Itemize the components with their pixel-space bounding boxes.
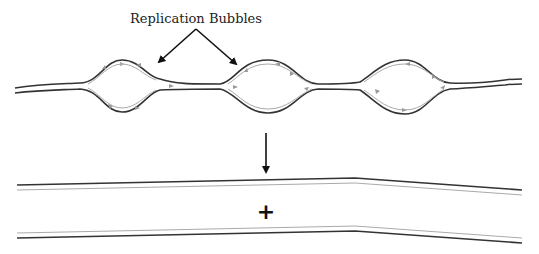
label-pointer-arrows (159, 29, 236, 64)
replication-bubbles-label: Replication Bubbles (130, 11, 262, 26)
bottom-parental-strand (15, 84, 522, 114)
replication-diagram: Replication Bubbles (0, 0, 539, 254)
replicating-dna (15, 60, 522, 114)
daughter-dna-1 (17, 178, 522, 195)
daughter-dna-2 (17, 226, 522, 243)
plus-symbol: + (257, 199, 275, 224)
